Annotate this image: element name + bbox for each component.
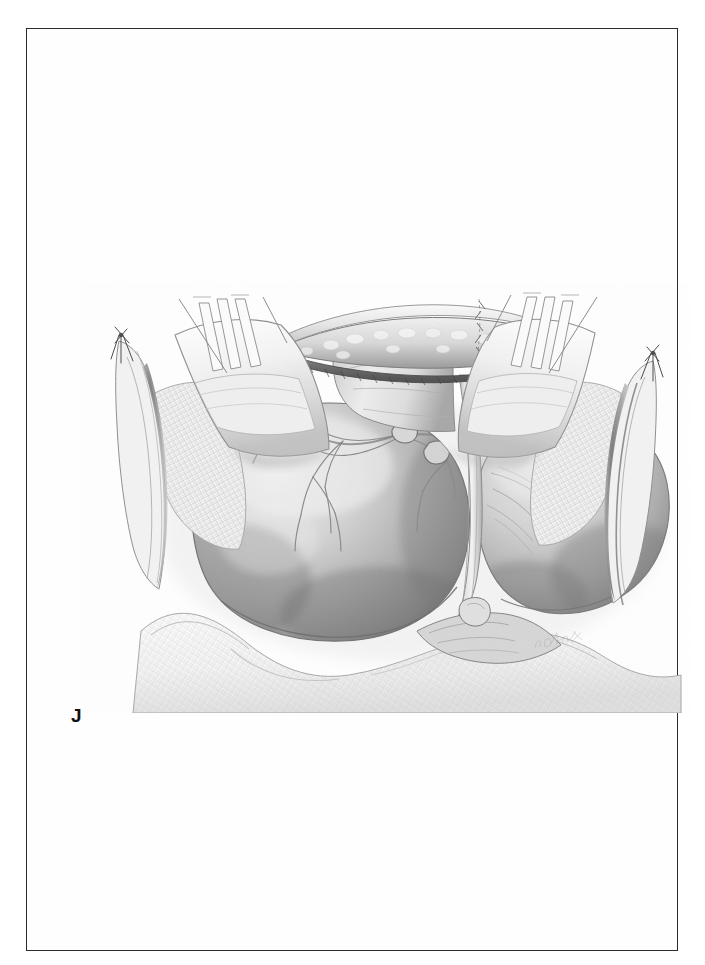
paper-grain [81, 283, 691, 713]
illustration-page: J [0, 0, 705, 965]
panel-label: J [71, 706, 82, 725]
surgical-illustration [81, 283, 691, 713]
figure-area: J [26, 28, 678, 951]
surgical-illustration-svg [81, 283, 691, 713]
